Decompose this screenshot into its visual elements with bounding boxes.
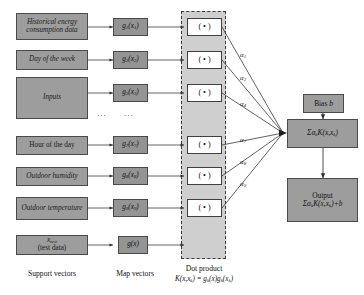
map-vector-box-4: g7(x7) (113, 136, 148, 154)
map-vector-label-test: g(x) (127, 241, 139, 249)
output-content: Output ΣαkK(x,xk)+b (303, 192, 343, 209)
support-vector-label-1: Historical energy consumption data (17, 19, 87, 35)
map-vector-box-1: g1(x1) (113, 18, 148, 36)
alpha-label-4: α4 (240, 100, 246, 108)
alpha-label-2: α2 (240, 74, 246, 82)
test-data-label: xtest (test data) (38, 237, 67, 253)
dot-product-box-5: ( • ) (187, 167, 222, 185)
support-vector-box-4: Hour of the day (16, 136, 88, 155)
map-vector-label-5: g8(x8) (122, 172, 138, 180)
support-vector-box-6: Outdoor temperature (16, 197, 88, 220)
dot-product-label-5: ( • ) (198, 172, 210, 181)
support-vector-label-5: Outdoor humidity (26, 173, 77, 181)
support-vector-box-1: Historical energy consumption data (16, 13, 88, 40)
diagram-canvas: Historical energy consumption data Day o… (0, 0, 364, 295)
dot-product-box-6: ( • ) (187, 199, 222, 217)
support-column-ellipsis: ... (97, 108, 107, 118)
bias-box: Bias b (303, 94, 344, 113)
support-vector-label-3: Inputs (43, 94, 61, 102)
map-vector-box-test: g(x) (118, 236, 148, 254)
map-vector-label-3: g3(x3) (122, 89, 138, 97)
support-vector-label-2: Day of the week (29, 56, 75, 64)
alpha-label-9: α9 (240, 180, 246, 188)
output-box: Output ΣαkK(x,xk)+b (287, 178, 358, 222)
dot-product-box-1: ( • ) (187, 18, 222, 36)
output-formula: ΣαkK(x,xk)+b (303, 200, 343, 209)
alpha-label-7: α7 (240, 136, 246, 144)
map-vector-label-1: g1(x1) (122, 23, 138, 31)
map-vector-box-3: g3(x3) (113, 84, 148, 102)
map-vector-label-4: g7(x7) (122, 141, 138, 149)
alpha-label-1: α1 (240, 51, 246, 59)
dot-product-box-3: ( • ) (187, 84, 222, 102)
map-vector-label-2: g2(x2) (122, 56, 138, 64)
dot-product-label-6: ( • ) (198, 204, 210, 213)
sum-input-arrow (279, 130, 287, 137)
support-vector-box-test: xtest (test data) (16, 235, 88, 255)
support-vector-label-4: Hour of the day (29, 142, 74, 150)
map-vector-label-6: g9(x9) (122, 204, 138, 212)
bias-label: Bias b (314, 100, 333, 108)
summation-label: ΣαkK(x,xk) (307, 129, 338, 138)
dot-product-label-4: ( • ) (198, 141, 210, 150)
support-vector-label-6: Outdoor temperature (21, 205, 82, 213)
caption-dot-product-formula: K(x,xk) = gk(x)gk(xk) (156, 275, 252, 283)
dot-product-label-3: ( • ) (198, 89, 210, 98)
support-vector-box-5: Outdoor humidity (16, 167, 88, 186)
dot-product-box-4: ( • ) (187, 136, 222, 154)
dot-product-label-2: ( • ) (198, 56, 210, 65)
map-vector-box-6: g9(x9) (113, 199, 148, 217)
caption-dot-product: Dot product (172, 264, 236, 273)
support-vector-box-2: Day of the week (16, 50, 88, 70)
dot-product-label-1: ( • ) (198, 23, 210, 32)
summation-box: ΣαkK(x,xk) (287, 119, 358, 148)
map-vector-box-5: g8(x8) (113, 167, 148, 185)
dot-product-box-2: ( • ) (187, 51, 222, 69)
map-column-ellipsis: ... (124, 108, 134, 118)
map-vector-box-2: g2(x2) (113, 51, 148, 69)
caption-support-vectors: Support vectors (16, 269, 88, 278)
support-vector-box-3: Inputs (16, 77, 88, 119)
alpha-label-8: α8 (240, 158, 246, 166)
